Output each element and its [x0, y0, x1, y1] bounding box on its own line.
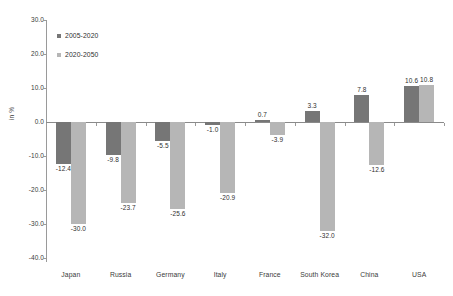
- bar-value-label: 3.3: [298, 102, 326, 109]
- x-axis-tick: [46, 123, 47, 126]
- bar-chart: in % 30.020.010.00.0-10.0-20.0-30.0-40.0…: [0, 0, 453, 296]
- bar-value-label: -25.6: [164, 210, 192, 217]
- bar-value-label: -23.7: [114, 204, 142, 211]
- y-axis-tick: [43, 224, 46, 225]
- bar-value-label: -3.9: [263, 136, 291, 143]
- bar[interactable]: [320, 122, 335, 231]
- x-axis-tick: [444, 123, 445, 126]
- y-axis-tick: [43, 258, 46, 259]
- y-axis-tick-label: 10.0: [14, 84, 44, 91]
- bar[interactable]: [205, 122, 220, 125]
- bar-value-label: -12.6: [363, 166, 391, 173]
- bar-value-label: 10.8: [413, 76, 441, 83]
- x-axis-tick: [146, 123, 147, 126]
- x-axis-tick: [394, 123, 395, 126]
- x-axis-tick: [295, 123, 296, 126]
- y-axis-tick: [43, 190, 46, 191]
- bar[interactable]: [121, 122, 136, 203]
- bar-value-label: -20.9: [214, 194, 242, 201]
- y-axis-tick-label: 30.0: [14, 16, 44, 23]
- y-axis-tick-label: -20.0: [14, 186, 44, 193]
- chart-legend: 2005-20202020-2050: [57, 26, 98, 64]
- bar[interactable]: [106, 122, 121, 155]
- bar-value-label: -32.0: [313, 232, 341, 239]
- legend-label: 2020-2050: [65, 51, 98, 58]
- y-axis-tick: [43, 54, 46, 55]
- y-axis-tick: [43, 20, 46, 21]
- bar[interactable]: [56, 122, 71, 164]
- bar[interactable]: [305, 111, 320, 122]
- y-axis-tick-label: -10.0: [14, 152, 44, 159]
- bar[interactable]: [354, 95, 369, 122]
- y-axis-spine: [46, 20, 47, 262]
- y-axis-tick: [43, 156, 46, 157]
- x-axis-category-label: USA: [379, 271, 453, 278]
- y-axis-tick-labels: 30.020.010.00.0-10.0-20.0-30.0-40.0: [12, 0, 44, 296]
- y-axis-tick-label: 0.0: [14, 118, 44, 125]
- y-axis-tick-label: -40.0: [14, 254, 44, 261]
- bar[interactable]: [404, 86, 419, 122]
- y-axis-tick-label: 20.0: [14, 50, 44, 57]
- legend-item[interactable]: 2020-2050: [57, 45, 98, 54]
- y-axis-tick-label: -30.0: [14, 220, 44, 227]
- bar[interactable]: [369, 122, 384, 165]
- legend-label: 2005-2020: [65, 32, 98, 39]
- bar[interactable]: [270, 122, 285, 135]
- x-axis-tick: [345, 123, 346, 126]
- bar-value-label: 7.8: [348, 86, 376, 93]
- x-axis-tick: [195, 123, 196, 126]
- legend-item[interactable]: 2005-2020: [57, 26, 98, 35]
- bar[interactable]: [155, 122, 170, 141]
- x-axis-tick: [245, 123, 246, 126]
- bar[interactable]: [170, 122, 185, 209]
- x-axis-category-labels: JapanRussiaGermanyItalyFranceSouth Korea…: [46, 271, 444, 285]
- legend-swatch-icon: [57, 53, 61, 57]
- y-axis-tick: [43, 88, 46, 89]
- bar[interactable]: [220, 122, 235, 193]
- bar[interactable]: [419, 85, 434, 122]
- bar[interactable]: [71, 122, 86, 224]
- bar-value-label: -30.0: [64, 225, 92, 232]
- bar-value-label: 0.7: [248, 111, 276, 118]
- bar[interactable]: [255, 120, 270, 122]
- x-axis-tick: [96, 123, 97, 126]
- plot-area: -12.4-30.0-9.8-23.7-5.5-25.6-1.0-20.90.7…: [46, 16, 444, 262]
- legend-swatch-icon: [57, 34, 61, 38]
